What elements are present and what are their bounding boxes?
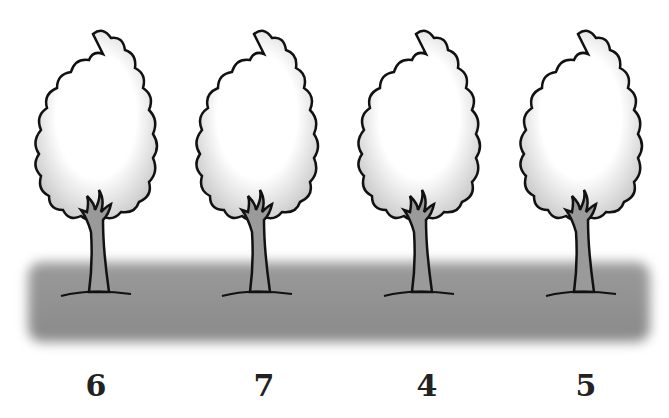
tree-label-3: 4	[407, 368, 447, 403]
tree-icon	[176, 20, 336, 320]
tree-icon	[15, 20, 175, 320]
tree-icon	[338, 20, 498, 320]
tree-label-1: 6	[76, 368, 116, 403]
tree-label-2: 7	[244, 368, 284, 403]
tree-1	[15, 20, 175, 320]
tree-illustration: 6 7 4 5	[0, 0, 669, 418]
tree-3	[338, 20, 498, 320]
tree-icon	[500, 20, 660, 320]
tree-2	[176, 20, 336, 320]
tree-label-4: 5	[566, 368, 606, 403]
tree-4	[500, 20, 660, 320]
